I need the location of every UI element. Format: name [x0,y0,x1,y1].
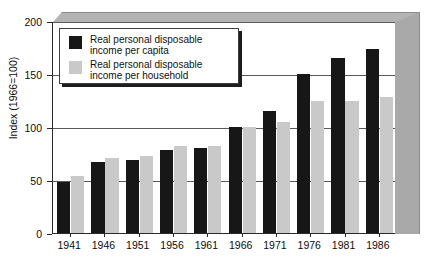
legend-entry-2: Real personal disposable income per hous… [69,60,202,81]
x-tick-label-1956: 1956 [155,240,189,251]
legend-swatch-per-household [69,61,82,74]
chart-legend: Real personal disposable income per capi… [59,28,239,84]
x-tick-mark-1986 [379,233,380,237]
legend-label-2: Real personal disposable income per hous… [90,60,202,81]
legend-entry-1: Real personal disposable income per capi… [69,35,202,56]
x-tick-mark-1966 [242,233,243,237]
x-tick-mark-1971 [276,233,277,237]
x-tick-label-1961: 1961 [189,240,223,251]
x-tick-label-1941: 1941 [52,240,86,251]
x-tick-mark-1976 [310,233,311,237]
x-tick-mark-1981 [345,233,346,237]
x-tick-mark-1956 [173,233,174,237]
x-tick-mark-1951 [139,233,140,237]
x-tick-mark-1961 [207,233,208,237]
legend-label-1: Real personal disposable income per capi… [90,35,202,56]
x-tick-label-1971: 1971 [258,240,292,251]
x-axis-labels: 1941194619511956196119661971197619811986 [52,240,395,256]
x-tick-label-1946: 1946 [86,240,120,251]
x-tick-label-1986: 1986 [361,240,395,251]
legend-swatch-per-capita [69,36,82,49]
y-axis-title: Index (1966=100) [7,18,19,178]
x-tick-mark-1946 [104,233,105,237]
x-tick-label-1951: 1951 [121,240,155,251]
x-tick-label-1976: 1976 [292,240,326,251]
x-tick-label-1981: 1981 [327,240,361,251]
x-tick-label-1966: 1966 [224,240,258,251]
bar-chart: 050100150200 Index (1966=100) 1941194619… [0,0,439,265]
x-tick-mark-1941 [70,233,71,237]
